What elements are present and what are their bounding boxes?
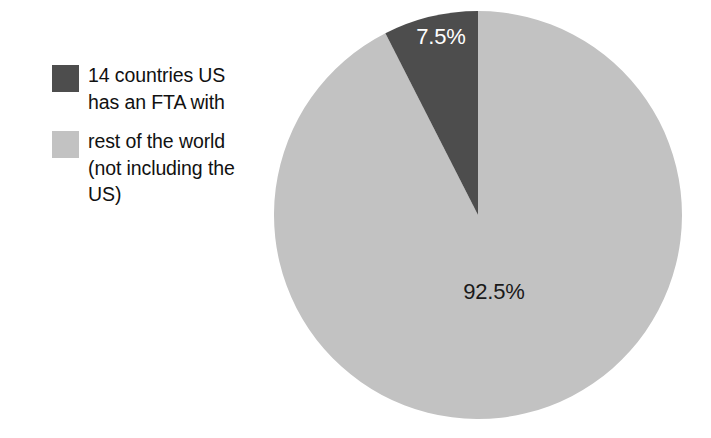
legend-label-fta-countries: 14 countries US has an FTA with xyxy=(88,62,225,115)
legend-item-fta-countries[interactable]: 14 countries US has an FTA with xyxy=(52,62,267,115)
legend-label-rest-of-world: rest of the world (not including the US) xyxy=(88,128,235,208)
legend-item-rest-of-world[interactable]: rest of the world (not including the US) xyxy=(52,128,267,208)
pie-slice-label-fta-countries: 7.5% xyxy=(416,24,465,49)
legend-swatch-rest-of-world xyxy=(52,131,79,158)
pie-chart-figure: 14 countries US has an FTA with rest of … xyxy=(0,0,711,438)
chart-legend: 14 countries US has an FTA with rest of … xyxy=(52,62,267,221)
pie-slice-label-rest-of-world: 92.5% xyxy=(463,279,524,304)
pie-chart-plot-area: 7.5% 92.5% xyxy=(273,10,683,420)
legend-swatch-fta-countries xyxy=(52,65,79,92)
pie-svg: 7.5% 92.5% xyxy=(273,10,683,420)
